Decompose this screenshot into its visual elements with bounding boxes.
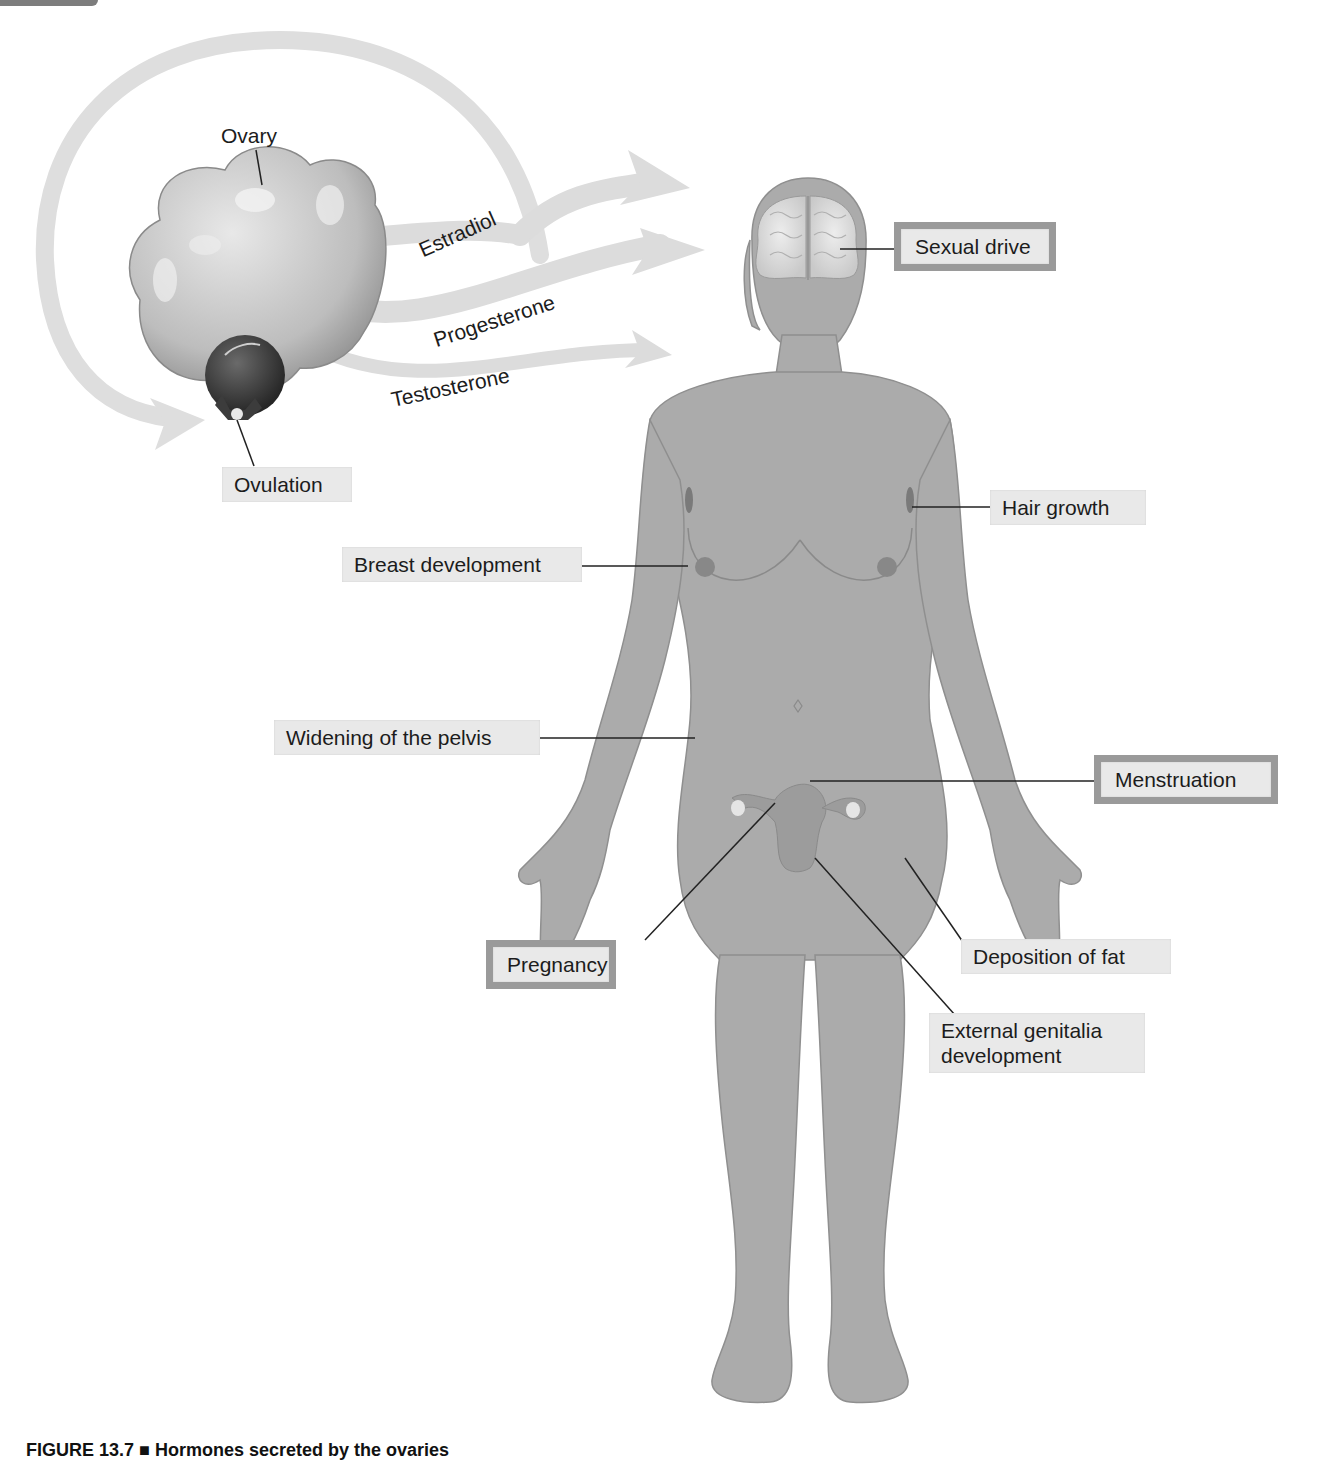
ovulation-leader	[237, 420, 254, 466]
ovary-illustration	[130, 147, 386, 420]
figure-caption: FIGURE 13.7 ■ Hormones secreted by the o…	[26, 1440, 449, 1461]
left-areola	[695, 557, 715, 577]
effect-widening-pelvis: Widening of the pelvis	[274, 720, 540, 755]
right-armpit	[906, 487, 914, 513]
left-armpit	[685, 487, 693, 513]
effect-external-genitalia: External genitalia development	[929, 1013, 1145, 1073]
effect-breast-development: Breast development	[342, 547, 582, 582]
effect-menstruation: Menstruation	[1094, 755, 1278, 804]
ovary-label: Ovary	[221, 124, 277, 148]
right-areola	[877, 557, 897, 577]
ovulation-label: Ovulation	[222, 467, 352, 502]
effect-deposition-of-fat: Deposition of fat	[961, 939, 1171, 974]
effect-sexual-drive: Sexual drive	[894, 222, 1056, 271]
effect-pregnancy: Pregnancy	[486, 940, 616, 989]
effect-hair-growth: Hair growth	[990, 490, 1146, 525]
